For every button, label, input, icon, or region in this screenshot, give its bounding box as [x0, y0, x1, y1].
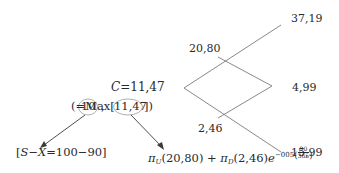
- branch-down-up: [218, 86, 272, 118]
- frac-close: ): [309, 150, 313, 160]
- hold-value-annotation: πU(20,80) + πD(2,46)e−005(90365): [148, 146, 313, 166]
- max-comma: ,: [101, 101, 105, 113]
- branch-root-down: [184, 88, 281, 152]
- ex-close: ]: [102, 145, 107, 159]
- max-option-hold: 11,47: [114, 101, 147, 113]
- node-down-value: 2,46: [198, 123, 223, 134]
- plus: +: [207, 151, 217, 165]
- exercise-value-annotation: [S−X=100−90]: [16, 147, 107, 159]
- max-close: ]): [144, 101, 153, 113]
- fraction: 90365: [298, 146, 309, 159]
- arrow-exercise: [44, 115, 85, 145]
- arg-d: (2,46): [234, 151, 269, 165]
- max-option-exercise: 10: [81, 101, 96, 113]
- frac-den: 365: [298, 153, 309, 159]
- c-symbol: C: [111, 80, 120, 94]
- exponent: −005: [275, 151, 294, 159]
- pi-u: π: [148, 151, 156, 165]
- c-eq: =: [120, 80, 130, 94]
- ex-eq: =: [46, 145, 56, 159]
- branch-up-down: [218, 57, 272, 86]
- e-const: e: [268, 151, 275, 165]
- pi-d: π: [220, 151, 228, 165]
- c-value: 11,47: [130, 80, 164, 94]
- node-uu-value: 37,19: [291, 13, 323, 24]
- ex-minus: −: [28, 145, 38, 159]
- node-up-value: 20,80: [189, 43, 221, 54]
- ex-x: X: [38, 145, 46, 159]
- branch-root-up: [184, 25, 281, 88]
- arrow-hold: [131, 115, 161, 146]
- ex-values: 100−90: [56, 145, 102, 159]
- arg-u: (20,80): [161, 151, 203, 165]
- node-ud-value: 4,99: [292, 82, 317, 93]
- root-value-label: C=11,47: [111, 81, 165, 93]
